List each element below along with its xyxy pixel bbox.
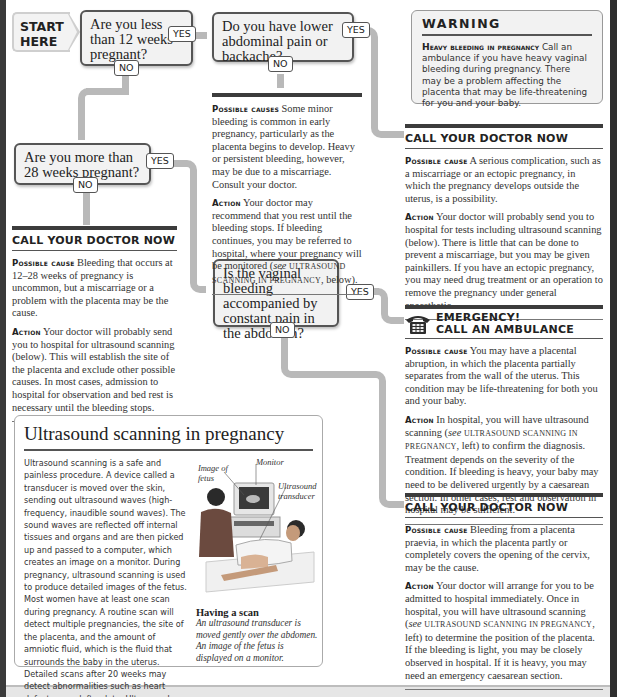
page-edge-left <box>0 0 6 697</box>
section-rule <box>212 93 362 97</box>
section-rule-bottom <box>212 294 362 295</box>
panel-body-text: Ultrasound scanning is a safe and painle… <box>24 457 190 697</box>
see-text: see <box>408 618 421 629</box>
telephone-icon <box>405 313 431 335</box>
section-heading: CALL YOUR DOCTOR NOW <box>12 230 177 251</box>
start-label-line1: START <box>20 19 70 34</box>
warning-text: Heavy bleeding in pregnancy Call an ambu… <box>422 41 592 109</box>
lead-label: Action <box>405 212 434 222</box>
question-text: Are you more than 28 weeks pregnant? <box>24 149 139 180</box>
outcome-emergency-ambulance: EMERGENCY! CALL AN AMBULANCE Possible ca… <box>405 305 603 525</box>
paragraph-text: Your doctor will probably send you to ho… <box>405 211 603 310</box>
outcome-call-doctor-ectopic: CALL YOUR DOCTOR NOW Possible cause A se… <box>405 124 603 320</box>
possible-causes-paragraph: Possible causes Some minor bleeding is c… <box>212 103 362 191</box>
warning-title: WARNING <box>422 16 592 36</box>
action-paragraph: Action Your doctor will probably send yo… <box>405 211 603 312</box>
outcome-call-doctor-midterm: CALL YOUR DOCTOR NOW Possible cause Blee… <box>12 226 177 422</box>
see-text: see <box>273 260 286 271</box>
no-tag: NO <box>270 322 295 338</box>
lead-label: Possible cause <box>12 258 74 268</box>
possible-cause-paragraph: Possible cause A serious complication, s… <box>405 155 603 205</box>
section-rule-bottom <box>405 689 603 690</box>
figure-label-transducer: Ultrasound transducer <box>278 481 318 501</box>
lead-label: Possible cause <box>405 525 467 535</box>
emergency-heading: EMERGENCY! CALL AN AMBULANCE <box>405 309 603 339</box>
emergency-heading-text: EMERGENCY! CALL AN AMBULANCE <box>436 312 574 336</box>
start-label-line2: HERE <box>20 34 70 49</box>
panel-title: Ultrasound scanning in pregnancy <box>24 423 313 451</box>
warning-box: WARNING Heavy bleeding in pregnancy Call… <box>411 10 603 104</box>
no-tag: NO <box>73 177 98 193</box>
lead-label: Action <box>212 198 241 208</box>
figure-caption-title: Having a scan <box>196 607 318 618</box>
section-heading: CALL YOUR DOCTOR NOW <box>405 128 603 149</box>
action-paragraph: Action Your doctor will probably send yo… <box>12 326 177 414</box>
figure-label-monitor: Monitor <box>256 457 284 467</box>
emergency-heading-line2: CALL AN AMBULANCE <box>436 324 574 336</box>
lead-label: Possible cause <box>405 346 467 356</box>
start-here-marker: START HERE <box>12 12 70 52</box>
figure-caption-text: An ultrasound transducer is moved gently… <box>196 618 318 664</box>
figure-caption-block: Having a scan An ultrasound transducer i… <box>196 607 318 664</box>
action-paragraph: Action Your doctor will arrange for you … <box>405 580 603 682</box>
figure-label-image-of-fetus: Image of fetus <box>198 463 233 483</box>
outcome-minor-bleeding: Possible causes Some minor bleeding is c… <box>212 93 362 295</box>
question-text: Are you less than 12 weeks pregnant? <box>90 16 173 62</box>
yes-tag: YES <box>168 26 196 42</box>
possible-cause-paragraph: Possible cause Bleeding that occurs at 1… <box>12 257 177 320</box>
lead-label: Possible causes <box>212 104 279 114</box>
lead-label: Possible cause <box>405 156 467 166</box>
possible-cause-paragraph: Possible cause Bleeding from a placenta … <box>405 524 603 574</box>
page-edge-right <box>610 0 617 697</box>
lead-label: Action <box>12 327 41 337</box>
paragraph-text: , below). <box>321 274 358 285</box>
paragraph-text: Your doctor may recommend that you rest … <box>212 197 362 271</box>
section-heading: CALL YOUR DOCTOR NOW <box>405 497 603 518</box>
yes-tag: YES <box>146 153 174 169</box>
lead-label: Action <box>405 581 434 591</box>
lead-label: Action <box>405 415 434 425</box>
no-tag: NO <box>114 60 139 76</box>
ultrasound-info-panel: Ultrasound scanning in pregnancy Ultraso… <box>14 415 323 667</box>
warning-lead: Heavy bleeding in pregnancy <box>422 41 539 52</box>
action-paragraph: Action Your doctor may recommend that yo… <box>212 197 362 287</box>
question-box-abdominal-pain: Do you have lower abdominal pain or back… <box>212 12 354 62</box>
yes-tag: YES <box>342 22 370 38</box>
paragraph-text: Some minor bleeding is common in early p… <box>212 103 355 190</box>
see-text: see <box>448 427 461 438</box>
no-tag: NO <box>268 56 293 72</box>
cross-reference-link[interactable]: Ultrasound scanning in pregnancy <box>424 620 592 629</box>
start-arrow-tip-inner <box>68 14 77 50</box>
possible-cause-paragraph: Possible cause You may have a placental … <box>405 345 603 408</box>
outcome-call-doctor-praevia: CALL YOUR DOCTOR NOW Possible cause Blee… <box>405 493 603 690</box>
ultrasound-figure: Image of fetus Monitor Ultrasound transd… <box>196 457 313 697</box>
paragraph-text: Your doctor will probably send you to ho… <box>12 326 175 413</box>
